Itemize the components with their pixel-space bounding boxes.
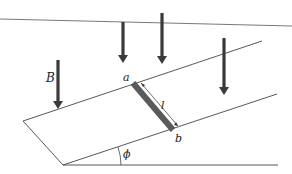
field-label-b: B (46, 72, 55, 84)
length-dimension (141, 83, 178, 126)
inclined-rails-diagram (0, 0, 292, 174)
rod-end-b: b (175, 133, 182, 144)
top-plane-edge (0, 19, 292, 26)
field-arrow-4 (219, 38, 229, 95)
angle-label: ϕ (123, 149, 131, 160)
rod-end-a: a (123, 72, 130, 83)
length-label: l (161, 100, 165, 111)
field-arrow-3 (157, 13, 167, 64)
sliding-rod (133, 83, 173, 130)
left-connector (23, 121, 63, 165)
angle-arc (118, 147, 121, 165)
field-arrow-2 (118, 22, 128, 63)
